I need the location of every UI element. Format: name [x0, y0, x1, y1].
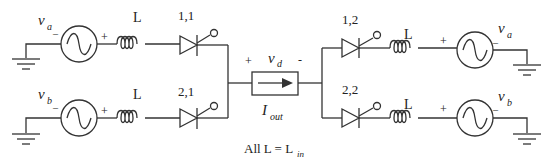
- thyristor-2-1: 2,1: [178, 84, 228, 129]
- thyristor-label: 2,1: [178, 84, 194, 99]
- inductor-l3: L: [390, 27, 457, 53]
- gate-terminal-icon: [374, 103, 381, 110]
- source-label: v: [38, 86, 45, 102]
- note-subscript: in: [297, 149, 305, 159]
- source-subscript: b: [47, 95, 52, 106]
- inductor-label: L: [133, 10, 142, 25]
- source-label: v: [498, 88, 505, 104]
- inductor-l2: L: [117, 87, 180, 123]
- note-text: All L = L: [244, 141, 293, 156]
- ground-icon: [513, 65, 541, 75]
- inductor-label: L: [404, 27, 413, 42]
- source-subscript: b: [507, 97, 512, 108]
- left-source-a: v a _ +: [12, 12, 117, 69]
- inductor-coil-icon: [117, 37, 137, 49]
- thyristor-2-2: 2,2: [322, 82, 390, 128]
- source-label: v: [38, 12, 45, 28]
- inductor-coil-icon: [390, 111, 410, 123]
- plus-sign: +: [101, 30, 108, 44]
- plus-sign: +: [101, 104, 108, 118]
- inductor-l4: L: [390, 97, 457, 123]
- thyristor-label: 2,2: [342, 82, 358, 97]
- source-subscript: a: [47, 21, 52, 32]
- thyristor-icon: [342, 39, 359, 57]
- inductor-l1: L: [117, 10, 180, 49]
- gate-terminal-icon: [374, 32, 381, 39]
- load-current-label: I: [261, 102, 268, 118]
- inductance-note: All L = L in: [244, 141, 305, 159]
- ground-icon: [12, 59, 40, 69]
- source-label: v: [498, 20, 505, 36]
- right-source-b: + _ v b: [440, 88, 541, 144]
- load-minus: -: [298, 53, 302, 67]
- load-current-subscript: out: [270, 111, 283, 122]
- load-plus: +: [245, 54, 252, 68]
- ground-icon: [513, 134, 541, 144]
- gate-terminal-icon: [211, 30, 218, 37]
- plus-sign: +: [440, 102, 447, 116]
- inductor-label: L: [133, 87, 142, 102]
- inductor-coil-icon: [390, 41, 410, 53]
- ground-icon: [12, 134, 40, 144]
- converter-circuit-diagram: v a _ + L 1,1 v b _ + L: [0, 0, 549, 167]
- thyristor-icon: [180, 36, 197, 54]
- minus-sign: _: [52, 98, 59, 109]
- inductor-label: L: [404, 97, 413, 112]
- plus-sign: +: [440, 34, 447, 48]
- left-source-b: v b _ +: [12, 86, 117, 144]
- thyristor-label: 1,1: [178, 8, 194, 23]
- load-block: + v d - I out: [245, 50, 302, 122]
- inductor-coil-icon: [117, 111, 137, 123]
- source-subscript: a: [507, 29, 512, 40]
- load-voltage-subscript: d: [277, 58, 283, 69]
- thyristor-1-2: 1,2: [322, 12, 390, 58]
- thyristor-label: 1,2: [342, 12, 358, 27]
- thyristor-1-1: 1,1: [178, 8, 228, 56]
- thyristor-icon: [180, 109, 197, 127]
- load-voltage-label: v: [268, 50, 275, 66]
- gate-terminal-icon: [211, 103, 218, 110]
- minus-sign: _: [52, 24, 59, 35]
- thyristor-icon: [342, 109, 359, 127]
